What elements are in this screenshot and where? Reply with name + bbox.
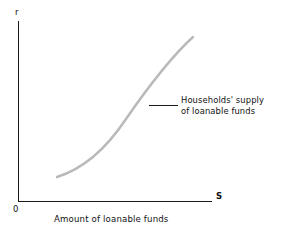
supply-curve-annotation-line2: of loanable funds	[181, 106, 264, 117]
figure-caption: Amount of loanable funds	[54, 215, 168, 224]
supply-curve-annotation: Households' supply of loanable funds	[181, 95, 264, 117]
supply-curve-annotation-line1: Households' supply	[181, 95, 264, 106]
origin-label: 0	[13, 205, 18, 214]
y-axis-label: r	[15, 8, 19, 17]
supply-curve	[57, 37, 193, 177]
economics-supply-curve-figure: r S 0 Households' supply of loanable fun…	[0, 0, 293, 234]
x-axis-label: S	[216, 192, 222, 201]
